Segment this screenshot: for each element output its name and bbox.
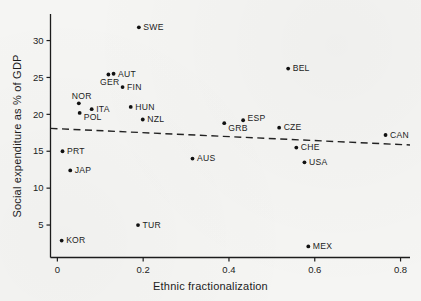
data-point (303, 160, 307, 164)
data-point (286, 67, 290, 71)
point-label: CZE (284, 122, 302, 132)
data-point (61, 149, 65, 153)
x-axis-title: Ethnic fractionalization (0, 280, 421, 292)
data-point (68, 169, 72, 173)
point-label: NOR (72, 91, 92, 101)
point-label: CAN (390, 130, 409, 140)
y-tick-label: 15 (33, 145, 44, 156)
point-label: SWE (143, 22, 163, 32)
data-point (78, 111, 82, 115)
point-label: FIN (127, 82, 142, 92)
scatter-plot: 5101520253000.20.40.60.8SWEBELAUTGERFINN… (0, 0, 421, 301)
data-point (60, 239, 64, 243)
point-label: TUR (143, 220, 161, 230)
data-point (129, 105, 133, 109)
point-label: HUN (135, 102, 154, 112)
data-point (191, 157, 195, 161)
y-tick-label: 25 (33, 72, 44, 83)
y-axis-title: Social expenditure as % of GDP (11, 36, 23, 236)
point-label: CHE (301, 142, 320, 152)
data-point (137, 25, 141, 29)
x-tick-label: 0.4 (222, 264, 235, 275)
point-label: BEL (293, 63, 310, 73)
point-label: KOR (66, 235, 85, 245)
y-tick-label: 30 (33, 35, 44, 46)
point-label: AUS (197, 153, 215, 163)
point-label: GRB (228, 123, 247, 133)
x-tick-label: 0.2 (137, 264, 150, 275)
data-point (136, 223, 140, 227)
point-label: USA (309, 157, 327, 167)
point-label: GER (100, 77, 119, 87)
x-tick-label: 0.8 (394, 264, 407, 275)
point-label: JAP (75, 165, 92, 175)
chart-figure: 5101520253000.20.40.60.8SWEBELAUTGERFINN… (0, 0, 421, 301)
data-point (77, 101, 81, 105)
data-point (277, 126, 281, 130)
x-tick-label: 0.6 (308, 264, 321, 275)
point-label: AUT (118, 69, 136, 79)
data-point (141, 118, 145, 122)
data-point (306, 245, 310, 249)
data-point (384, 133, 388, 137)
data-point (222, 121, 226, 125)
data-point (121, 85, 125, 89)
point-label: MEX (313, 241, 332, 251)
y-tick-label: 10 (33, 182, 44, 193)
x-tick-label: 0 (55, 264, 60, 275)
point-label: POL (84, 112, 102, 122)
point-label: ESP (248, 113, 266, 123)
data-point (294, 146, 298, 150)
point-label: NZL (147, 114, 164, 124)
point-label: PRT (67, 146, 85, 156)
data-point (90, 107, 94, 111)
y-tick-label: 5 (38, 219, 43, 230)
data-point (112, 72, 116, 76)
data-point (241, 118, 245, 122)
y-tick-label: 20 (33, 109, 44, 120)
